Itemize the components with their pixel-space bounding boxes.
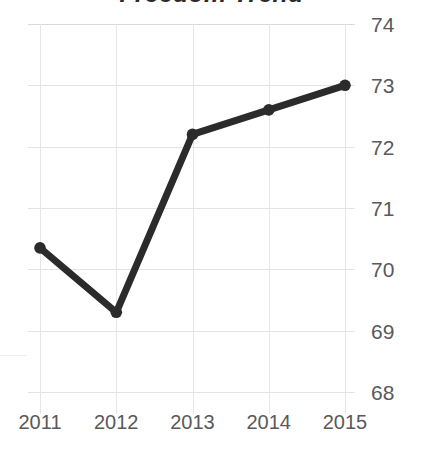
y-axis-label-73: 73 [371,75,423,96]
left-edge-gridline-stub [0,355,26,356]
x-axis-label-2012: 2012 [94,412,139,432]
series-line [40,85,345,312]
x-axis-label-2013: 2013 [170,412,215,432]
plot-area [28,24,355,392]
chart-title: Freedom Trend [0,0,423,8]
y-axis-label-68: 68 [371,382,423,403]
chart-container: Freedom Trend 74737271706968 20112012201… [0,0,423,458]
data-point-2015 [339,80,351,92]
data-point-2011 [34,242,46,254]
data-point-2014 [263,104,275,116]
x-axis-label-2011: 2011 [18,412,61,432]
line-series-freedom-trend [28,24,355,392]
y-axis-label-69: 69 [371,320,423,341]
y-axis-label-70: 70 [371,259,423,280]
x-axis-label-2015: 2015 [323,412,368,432]
y-axis-label-71: 71 [371,198,423,219]
data-point-2012 [111,307,123,319]
data-point-2013 [187,129,199,141]
y-axis-label-72: 72 [371,136,423,157]
gridline-y-68 [28,392,355,393]
x-axis-label-2014: 2014 [247,412,292,432]
y-axis-label-74: 74 [371,14,423,35]
